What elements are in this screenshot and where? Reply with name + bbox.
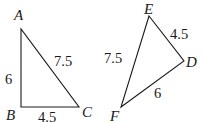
- congruent-triangles-diagram: A B C 6 7.5 4.5 E D F 4.5 7.5 6: [0, 0, 204, 122]
- edge-label-ef: 7.5: [104, 50, 122, 66]
- vertex-label-f: F: [109, 108, 120, 122]
- edge-label-df: 6: [154, 85, 161, 101]
- vertex-label-d: D: [185, 54, 197, 70]
- triangle-def: E D F 4.5 7.5 6: [104, 1, 197, 122]
- edge-label-ed: 4.5: [170, 26, 188, 42]
- edge-label-ac: 7.5: [54, 53, 72, 69]
- vertex-label-a: A: [13, 7, 24, 23]
- triangle-abc: A B C 6 7.5 4.5: [5, 7, 93, 122]
- edge-label-ab: 6: [5, 71, 12, 87]
- vertex-label-b: B: [6, 107, 15, 122]
- vertex-label-e: E: [143, 1, 153, 17]
- edge-label-bc: 4.5: [38, 109, 56, 122]
- vertex-label-c: C: [82, 104, 93, 120]
